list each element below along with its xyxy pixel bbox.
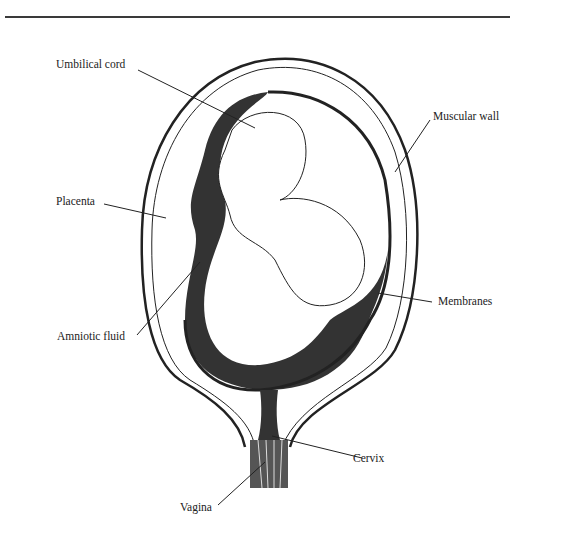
label-umbilical-cord: Umbilical cord (56, 58, 125, 70)
label-muscular-wall: Muscular wall (433, 110, 499, 122)
uterus-diagram (0, 0, 563, 537)
label-placenta: Placenta (56, 195, 95, 207)
label-amniotic-fluid: Amniotic fluid (57, 330, 125, 342)
label-cervix: Cervix (353, 452, 384, 464)
fetus-outline (219, 112, 365, 305)
label-membranes: Membranes (438, 295, 492, 307)
label-vagina: Vagina (180, 501, 212, 513)
cervix-canal (258, 390, 280, 440)
vagina-region (250, 440, 288, 488)
